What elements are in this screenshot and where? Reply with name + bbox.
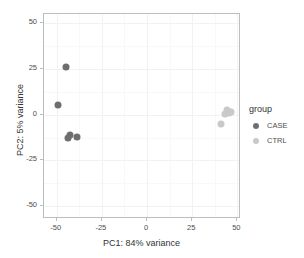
y-tick-label: 0 bbox=[11, 110, 37, 118]
x-tick-label: 25 bbox=[187, 224, 195, 232]
gridline-minor-horizontal bbox=[44, 92, 239, 93]
gridline-major-horizontal bbox=[44, 206, 239, 207]
x-tick-label: 50 bbox=[232, 224, 240, 232]
plot-panel bbox=[43, 13, 240, 218]
data-point-case bbox=[54, 101, 61, 108]
gridline-minor-horizontal bbox=[44, 46, 239, 47]
y-tick-mark bbox=[40, 159, 43, 160]
x-tick-mark bbox=[236, 218, 237, 221]
y-tick-label: -25 bbox=[11, 156, 37, 164]
legend-item-ctrl[interactable]: CTRL bbox=[249, 134, 287, 147]
pca-scatter-plot: PC1: 84% variance PC2: 5% variance group… bbox=[0, 0, 304, 258]
x-tick-label: -50 bbox=[50, 224, 61, 232]
legend-item-case[interactable]: CASE bbox=[249, 119, 287, 132]
x-tick-mark bbox=[146, 218, 147, 221]
legend-dot-icon bbox=[253, 138, 259, 144]
x-axis-title: PC1: 84% variance bbox=[43, 238, 240, 248]
data-point-ctrl bbox=[228, 108, 235, 115]
legend-key-ctrl bbox=[249, 134, 262, 147]
x-tick-label: 0 bbox=[144, 224, 148, 232]
legend-dot-icon bbox=[253, 123, 259, 129]
x-tick-label: -25 bbox=[95, 224, 106, 232]
gridline-major-horizontal bbox=[44, 160, 239, 161]
gridline-minor-horizontal bbox=[44, 183, 239, 184]
legend-title: group bbox=[249, 104, 287, 114]
data-point-case bbox=[65, 134, 72, 141]
data-point-case bbox=[73, 133, 80, 140]
legend: group CASE CTRL bbox=[249, 104, 287, 149]
gridline-major-horizontal bbox=[44, 115, 239, 116]
y-tick-mark bbox=[40, 114, 43, 115]
x-tick-mark bbox=[101, 218, 102, 221]
data-point-ctrl bbox=[218, 120, 225, 127]
y-tick-mark bbox=[40, 205, 43, 206]
data-point-case bbox=[62, 64, 69, 71]
x-tick-mark bbox=[191, 218, 192, 221]
legend-label-case: CASE bbox=[267, 121, 287, 130]
y-tick-label: -50 bbox=[11, 201, 37, 209]
gridline-major-horizontal bbox=[44, 69, 239, 70]
y-tick-mark bbox=[40, 22, 43, 23]
legend-label-ctrl: CTRL bbox=[267, 136, 287, 145]
y-tick-label: 50 bbox=[11, 18, 37, 26]
y-tick-mark bbox=[40, 68, 43, 69]
legend-key-case bbox=[249, 119, 262, 132]
gridline-major-horizontal bbox=[44, 23, 239, 24]
x-tick-mark bbox=[56, 218, 57, 221]
y-tick-label: 25 bbox=[11, 64, 37, 72]
